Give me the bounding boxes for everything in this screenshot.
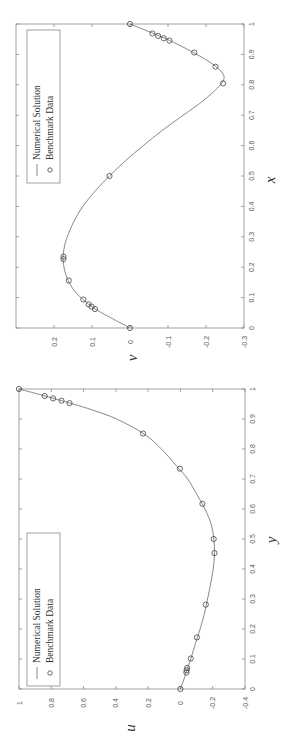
tick-label: 0.7	[248, 110, 255, 120]
legend: Numerical Solution Benchmark Data	[27, 533, 60, 686]
tick-label: 0.1	[249, 654, 256, 664]
tick-label: 0.2	[145, 698, 152, 708]
y-axis-label: y	[263, 536, 279, 545]
tick-label: 0.8	[248, 80, 255, 90]
tick-label: 0.7	[249, 474, 256, 484]
plot-u-vs-y: 00.10.20.30.40.50.60.70.80.91 -0.4-0.200…	[16, 386, 280, 731]
tick-label: 0.4	[112, 698, 119, 708]
legend-label-benchmark: Benchmark Data	[45, 598, 55, 663]
tick-label: 0.4	[249, 564, 256, 574]
tick-label: 0	[248, 326, 255, 330]
x-axis-label: x	[262, 176, 278, 184]
tick-label: 0	[127, 340, 134, 344]
tick-label: -0.2	[209, 697, 216, 709]
tick-label: 1	[248, 22, 255, 26]
tick-label: -0.3	[241, 336, 248, 348]
tick-label: 0.2	[249, 624, 256, 634]
tick-label: 0.2	[51, 337, 58, 347]
tick-label: 1	[16, 701, 23, 705]
tick-label: 0.6	[248, 141, 255, 151]
u-axis-label: u	[122, 724, 138, 732]
legend-label-benchmark: Benchmark Data	[45, 95, 55, 160]
legend-label-numerical: Numerical Solution	[32, 588, 42, 663]
tick-label: 0	[249, 687, 256, 691]
tick-label: 0.5	[248, 171, 255, 181]
legend-label-numerical: Numerical Solution	[32, 85, 42, 160]
benchmark-markers	[61, 21, 226, 330]
tick-label: 0.6	[80, 698, 87, 708]
numerical-solution-curve	[63, 24, 224, 328]
tick-label: 0.1	[248, 293, 255, 303]
tick-label: 0.5	[249, 534, 256, 544]
plot-v-vs-x: 00.10.20.30.40.50.60.70.80.91 -0.3-0.2-0…	[16, 21, 278, 361]
v-axis-ticks: -0.3-0.2-0.100.10.2	[51, 24, 248, 348]
tick-label: 0.1	[89, 337, 96, 347]
v-axis-label: v	[124, 354, 140, 361]
tick-label: -0.1	[165, 336, 172, 348]
tick-label: 0.6	[249, 504, 256, 514]
benchmark-point	[177, 466, 182, 471]
tick-label: 0.9	[248, 49, 255, 59]
tick-label: 1	[249, 387, 256, 391]
legend: Numerical Solution Benchmark Data	[27, 30, 60, 183]
tick-label: -0.2	[203, 336, 210, 348]
tick-label: -0.4	[242, 697, 249, 709]
tick-label: 0	[177, 701, 184, 705]
tick-label: 0.2	[248, 262, 255, 272]
tick-label: 0.8	[48, 698, 55, 708]
tick-label: 0.9	[249, 414, 256, 424]
tick-label: 0.4	[248, 201, 255, 211]
tick-label: 0.8	[249, 444, 256, 454]
tick-label: 0.3	[248, 232, 255, 242]
tick-label: 0.3	[249, 594, 256, 604]
figure: 00.10.20.30.40.50.60.70.80.91 -0.3-0.2-0…	[0, 0, 294, 756]
